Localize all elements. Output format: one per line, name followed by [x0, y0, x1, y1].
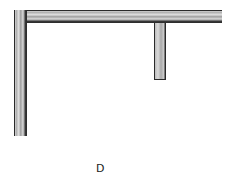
left-wall	[14, 10, 27, 136]
diagram-label: D	[96, 163, 104, 174]
partition-stub	[154, 23, 166, 80]
top-wall	[14, 10, 222, 23]
